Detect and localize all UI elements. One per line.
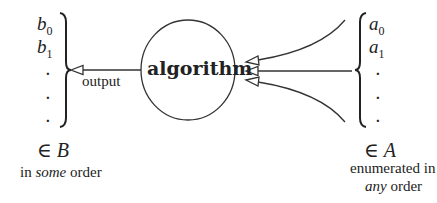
right-ellipsis-0: .: [375, 60, 381, 78]
left-ellipsis-2: .: [45, 107, 51, 125]
right-ellipsis-2: .: [375, 107, 381, 125]
left-set-caption: in some order: [20, 165, 102, 180]
algorithm-label: algorithm: [147, 59, 252, 78]
input-edge-top: [258, 20, 345, 60]
left-ellipsis-1: .: [45, 84, 51, 102]
right-element-1: a1: [369, 37, 385, 60]
right-set-membership: ∈ A: [364, 140, 396, 160]
right-set-caption-line2: any order: [365, 179, 422, 194]
left-set-membership: ∈ B: [37, 140, 69, 160]
right-brace: [355, 13, 366, 127]
left-element-0: b0: [37, 14, 53, 37]
output-edge-label: output: [82, 74, 120, 89]
left-element-1: b1: [37, 37, 53, 60]
input-edge-bottom: [258, 82, 345, 122]
right-element-0: a0: [369, 14, 385, 37]
right-set-caption-line1: enumerated in: [350, 161, 435, 176]
right-ellipsis-1: .: [375, 84, 381, 102]
left-ellipsis-0: .: [45, 60, 51, 78]
